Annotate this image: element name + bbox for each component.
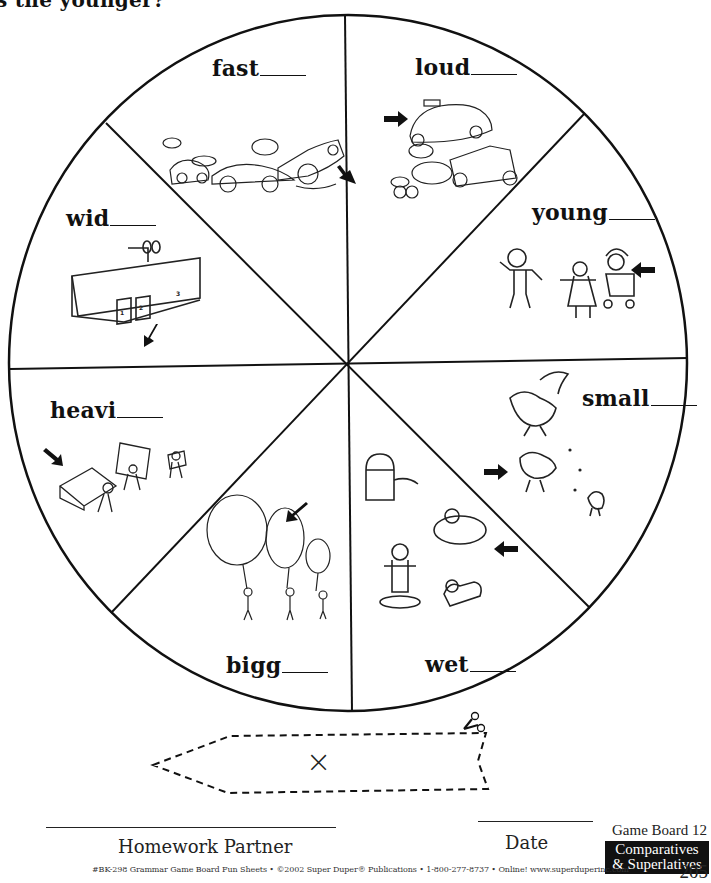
arrow-icon (43, 448, 63, 466)
segment-word-small: small (582, 385, 697, 411)
arrow-icon (144, 324, 158, 347)
footer-credits: #BK-298 Grammar Game Board Fun Sheets • … (92, 865, 629, 874)
children-stroller-icon (500, 249, 634, 318)
boxes-carriers-icon (60, 443, 186, 512)
segment-word-heavi: heavi (50, 397, 163, 423)
date-label: Date (505, 832, 548, 853)
game-board: 1 2 3 (0, 0, 711, 883)
page-number: 205 (680, 861, 709, 883)
spoke-diag-b (111, 113, 585, 613)
answer-blank[interactable] (117, 416, 163, 418)
answer-blank[interactable] (609, 218, 655, 220)
scissors-icon (464, 713, 485, 732)
word-text: wid (66, 205, 109, 231)
bay-3: 3 (176, 290, 180, 297)
word-text: fast (212, 55, 259, 81)
word-text: bigg (226, 652, 281, 678)
answer-blank[interactable] (282, 671, 328, 673)
balloons-icon (207, 495, 330, 620)
traffic-vehicles-icon (391, 100, 517, 198)
segment-word-loud: loud (415, 54, 517, 80)
game-board-label: Game Board 12 (612, 822, 707, 839)
arrow-icon (494, 541, 518, 557)
category-line-1: Comparatives (605, 842, 709, 857)
arrow-icon (286, 502, 308, 522)
date-line[interactable] (478, 821, 593, 822)
word-text: young (532, 199, 608, 225)
word-text: loud (415, 54, 470, 80)
fire-station-icon: 1 2 3 (72, 241, 200, 324)
segment-word-wet: wet (425, 651, 516, 677)
segment-word-wid: wid (66, 205, 156, 231)
hydrant-kids-dog-icon (366, 454, 486, 608)
answer-blank[interactable] (110, 224, 156, 226)
word-text: small (582, 385, 650, 411)
segment-word-fast: fast (212, 55, 306, 81)
center-mark: × (306, 744, 331, 779)
arrow-icon (384, 111, 408, 127)
bay-1: 1 (120, 309, 124, 316)
segment-word-young: young (532, 199, 655, 225)
answer-blank[interactable] (651, 404, 697, 406)
segment-word-bigg: bigg (226, 652, 328, 678)
answer-blank[interactable] (260, 74, 306, 76)
race-cars-icon (163, 138, 344, 192)
word-text: wet (425, 651, 469, 677)
bay-2: 2 (139, 304, 143, 311)
partner-signature-line[interactable] (46, 827, 336, 828)
arrow-icon (484, 464, 508, 480)
word-text: heavi (50, 397, 116, 423)
partner-label: Homework Partner (118, 836, 292, 857)
answer-blank[interactable] (470, 670, 516, 672)
answer-blank[interactable] (471, 73, 517, 75)
